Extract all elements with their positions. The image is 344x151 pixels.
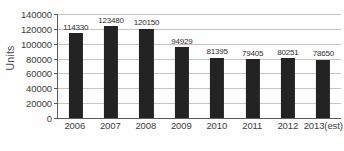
- bar-value-label: 78650: [313, 49, 334, 58]
- x-axis-tick-labels: 20062007200820092010201120122013(est): [57, 120, 341, 134]
- bar[interactable]: [210, 58, 224, 118]
- bar-value-label: 120150: [134, 18, 160, 27]
- x-axis-tick-label: 2007: [100, 120, 121, 131]
- x-axis-tick-label: 2010: [206, 120, 227, 131]
- bar-slot: 79405: [235, 14, 270, 118]
- x-axis-tick-label: 2012: [277, 120, 298, 131]
- y-axis-tick-label: 20000: [26, 98, 52, 109]
- x-axis-tick-label: 2006: [64, 120, 85, 131]
- bar[interactable]: [69, 33, 83, 118]
- y-axis-tick-label: 120000: [21, 23, 52, 34]
- bar[interactable]: [281, 58, 295, 118]
- bar-value-label: 81395: [207, 47, 228, 56]
- y-axis-tick-label: 100000: [21, 38, 52, 49]
- bar-slot: 78650: [306, 14, 341, 118]
- bar-slot: 80251: [270, 14, 305, 118]
- bar-value-label: 79405: [242, 49, 263, 58]
- y-axis-tick-label: 80000: [26, 53, 52, 64]
- x-axis-tick-label: 2011: [242, 120, 262, 131]
- plot-area: 1143301234801201509492981395794058025178…: [57, 14, 341, 118]
- bar[interactable]: [175, 47, 189, 118]
- y-axis-tick-label: 60000: [26, 68, 52, 79]
- bar-value-label: 80251: [277, 48, 298, 57]
- y-axis-tick-label: 40000: [26, 83, 52, 94]
- bars-group: 1143301234801201509492981395794058025178…: [58, 14, 341, 118]
- bar-value-label: 114330: [63, 23, 88, 32]
- y-axis-tick-label: 0: [47, 113, 52, 124]
- bar-slot: 120150: [129, 14, 164, 118]
- gridline: [58, 118, 341, 119]
- bar[interactable]: [139, 29, 153, 118]
- bar[interactable]: [104, 26, 118, 118]
- bar-chart-figure: Units 0200004000060000800001000001200001…: [0, 0, 344, 151]
- x-axis-tick-label: 2009: [171, 120, 192, 131]
- x-axis-tick-label: 2013(est): [304, 120, 343, 131]
- bar-slot: 123480: [93, 14, 128, 118]
- y-axis-tickmark: [54, 118, 58, 119]
- bar-value-label: 94929: [171, 37, 192, 46]
- caption-remnant: [18, 143, 318, 151]
- bar-slot: 81395: [200, 14, 235, 118]
- y-axis-tick-label: 140000: [21, 9, 52, 20]
- bar-slot: 114330: [58, 14, 93, 118]
- x-axis-tick-label: 2008: [135, 120, 156, 131]
- bar[interactable]: [316, 60, 330, 118]
- bar-slot: 94929: [164, 14, 199, 118]
- bar-value-label: 123480: [98, 16, 124, 25]
- bar[interactable]: [245, 59, 259, 118]
- y-axis-tick-labels: 020000400006000080000100000120000140000: [0, 14, 55, 118]
